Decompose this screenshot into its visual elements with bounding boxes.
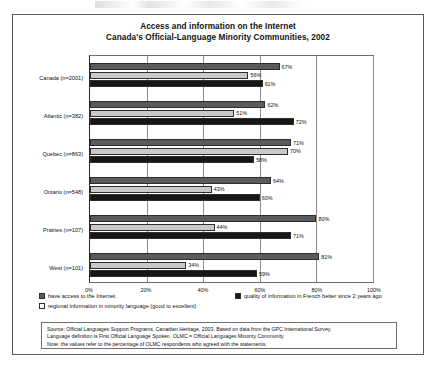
bar-value-label: 64% [273,178,284,184]
bar-value-label: 67% [282,64,293,70]
bar[interactable] [90,110,234,117]
bar-value-label: 59% [259,271,270,277]
source-note-line-2: Language definition is First Official La… [47,333,391,340]
bar-value-label: 43% [214,186,225,192]
source-note-line-1: Source: Official Languages Support Progr… [47,326,391,333]
category-label: Atlantic (n=382) [44,113,83,119]
bar[interactable] [90,139,291,146]
bar-value-label: 62% [267,102,278,108]
bar-row: 70% [90,148,373,155]
gridline [316,56,317,282]
bar[interactable] [90,101,265,108]
category-label: West (n=101) [49,265,83,271]
gridline [373,56,374,282]
bar-row: 80% [90,215,373,222]
plot-area: 67%56%61%62%51%72%71%70%58%64%43%60%80%4… [89,55,374,283]
bar[interactable] [90,72,248,79]
bar[interactable] [90,63,280,70]
bar[interactable] [90,215,316,222]
bar-value-label: 60% [262,195,273,201]
bar-row: 62% [90,101,373,108]
bar[interactable] [90,156,254,163]
bar-row: 71% [90,139,373,146]
bar[interactable] [90,232,291,239]
legend-swatch [235,293,241,299]
legend-label: regional information in minority languag… [48,303,196,309]
bar[interactable] [90,80,263,87]
gridline [260,56,261,282]
bar-value-label: 58% [256,157,267,163]
bar[interactable] [90,270,257,277]
plot-wrapper: Canada (n=2001)Atlantic (n=382)Quebec (n… [13,51,425,289]
category-label: Canada (n=2001) [39,75,83,81]
legend-item[interactable]: regional information in minority languag… [39,303,196,309]
legend-label: quality of information in French better … [244,293,382,299]
bar[interactable] [90,177,271,184]
bar[interactable] [90,148,288,155]
bar[interactable] [90,194,260,201]
chart-title: Access and information on the Internet C… [13,15,423,43]
bar-row: 72% [90,118,373,125]
bar-value-label: 72% [296,119,307,125]
scan-artifact [95,1,305,8]
category-label: Ontario (n=548) [44,189,83,195]
category-label: Quebec (n=863) [42,151,83,157]
bar-row: 64% [90,177,373,184]
bar-value-label: 81% [321,254,332,260]
bar[interactable] [90,262,186,269]
bar-value-label: 44% [217,224,228,230]
bar-value-label: 34% [188,262,199,268]
chart-title-line-2: Canada's Official-Language Minority Comm… [13,33,423,44]
legend-swatch [39,303,45,309]
legend-swatch [39,293,45,299]
bar-row: 67% [90,63,373,70]
chart-figure: Access and information on the Internet C… [12,14,424,355]
bar-value-label: 56% [250,72,261,78]
bar-value-label: 61% [265,81,276,87]
bar-row: 71% [90,232,373,239]
legend-item[interactable]: quality of information in French better … [235,293,382,299]
bar-value-label: 71% [293,233,304,239]
bar-row: 51% [90,110,373,117]
category-axis-labels: Canada (n=2001)Atlantic (n=382)Quebec (n… [13,55,87,283]
bar[interactable] [90,186,212,193]
bar[interactable] [90,224,215,231]
gridline [203,56,204,282]
bar-value-label: 51% [236,110,247,116]
source-note-line-3: Note: the values refer to the percentage… [47,341,391,348]
bar-value-label: 80% [318,216,329,222]
bar-row: 34% [90,262,373,269]
bar-row: 59% [90,270,373,277]
source-note-box: Source: Official Languages Support Progr… [41,322,397,349]
bar-row: 81% [90,253,373,260]
bar-row: 44% [90,224,373,231]
bar-row: 61% [90,80,373,87]
bar[interactable] [90,253,319,260]
category-label: Prairies (n=107) [43,227,83,233]
bar-row: 56% [90,72,373,79]
bar-row: 60% [90,194,373,201]
chart-legend: have access to the Internetquality of in… [39,293,409,319]
bar-value-label: 70% [290,148,301,154]
bar-value-label: 71% [293,140,304,146]
bar-row: 43% [90,186,373,193]
chart-title-line-1: Access and information on the Internet [13,22,423,33]
bar-row: 58% [90,156,373,163]
bar[interactable] [90,118,294,125]
legend-label: have access to the Internet [48,293,115,299]
legend-item[interactable]: have access to the Internet [39,293,115,299]
gridline [147,56,148,282]
